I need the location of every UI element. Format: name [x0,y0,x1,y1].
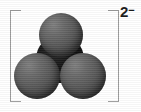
bracket-right [108,10,119,102]
atom-oxygen-bottom-right [60,53,106,99]
atom-oxygen-top [39,13,83,57]
charge-label: 2− [120,4,135,19]
molecule-model [14,13,106,99]
charge-sign: − [128,4,134,16]
atom-oxygen-bottom-left [14,53,60,99]
molecular-structure-figure: 2− [0,0,141,112]
